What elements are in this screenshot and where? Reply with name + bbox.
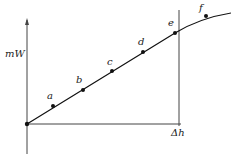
label-d: d: [138, 37, 144, 47]
x-axis-label: Δh: [171, 128, 185, 138]
label-a: a: [47, 91, 53, 101]
point-b: [81, 88, 85, 92]
point-a: [51, 104, 55, 108]
point-e: [173, 31, 177, 35]
y-axis-arrow-icon: [25, 18, 29, 25]
label-f: f: [199, 3, 203, 13]
point-f: [204, 14, 208, 18]
diagram-canvas: [0, 0, 231, 154]
label-c: c: [107, 57, 113, 67]
point-d: [141, 50, 145, 54]
y-axis-label: mW: [5, 49, 25, 59]
curve: [27, 13, 231, 124]
label-e: e: [168, 18, 174, 28]
origin-point: [25, 122, 29, 126]
label-b: b: [76, 75, 82, 85]
point-c: [110, 69, 114, 73]
